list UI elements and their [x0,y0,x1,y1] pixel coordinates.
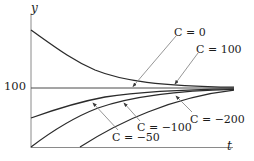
leader-lines [93,36,198,130]
leader-c-0 [133,36,176,87]
label-c-50-negative: C = −50 [112,132,160,143]
label-c-200-negative: C = −200 [190,114,245,125]
leader-c-50-negative [93,103,118,130]
y-tick-label-100: 100 [4,81,26,93]
label-c-100: C = 100 [196,44,242,55]
label-c-0: C = 0 [174,27,206,38]
y-axis-label: y [31,2,38,14]
leader-c-100 [175,53,198,84]
t-axis-label: t [227,140,232,152]
solution-curves-figure: y t 100 C = 0 C = 100 C = −200 C = −100 … [0,0,254,161]
